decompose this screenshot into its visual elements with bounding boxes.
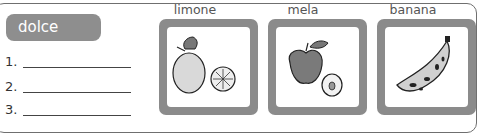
card-label-mela: mela bbox=[253, 2, 353, 17]
answer-number: 2. bbox=[5, 79, 21, 94]
card-label-banana: banana bbox=[363, 2, 463, 17]
lemon-icon bbox=[167, 27, 250, 107]
card-label-limone: limone bbox=[145, 2, 245, 17]
answer-panel: dolce 1. 2. 3. bbox=[0, 0, 150, 138]
card-limone[interactable] bbox=[159, 19, 258, 115]
answer-number: 3. bbox=[5, 102, 21, 117]
answer-blank[interactable] bbox=[23, 92, 131, 93]
answer-line-2: 2. bbox=[5, 79, 21, 94]
answer-number: 1. bbox=[5, 54, 21, 69]
card-mela[interactable] bbox=[268, 19, 367, 115]
apple-icon bbox=[276, 27, 359, 107]
answer-blank[interactable] bbox=[23, 115, 131, 116]
answer-line-1: 1. bbox=[5, 54, 21, 69]
banana-icon bbox=[385, 27, 468, 107]
card-banana[interactable] bbox=[377, 19, 476, 115]
answer-line-3: 3. bbox=[5, 102, 21, 117]
answer-blank[interactable] bbox=[23, 67, 131, 68]
category-heading: dolce bbox=[6, 14, 101, 41]
